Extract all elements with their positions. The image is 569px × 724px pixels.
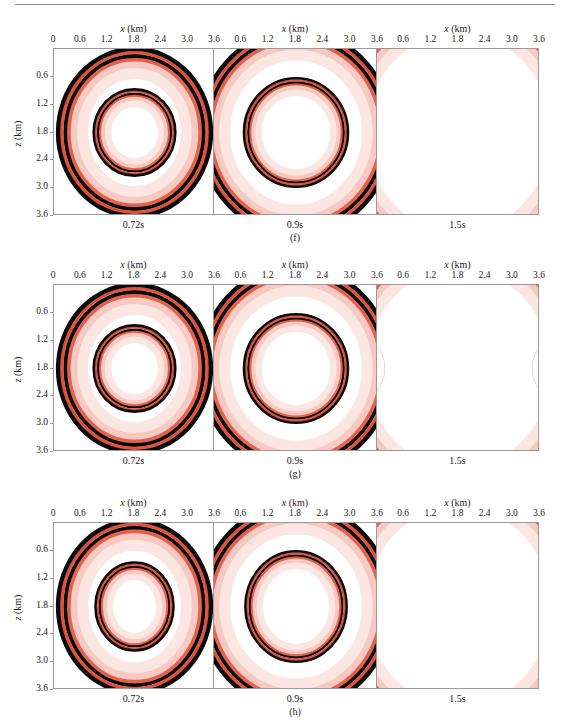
z-tick-label: 1.2 <box>24 334 48 344</box>
z-tick-label: 0.6 <box>24 70 48 80</box>
snapshot-panel-0_9s <box>213 522 377 689</box>
subfigure-label: (f) <box>275 232 315 243</box>
snapshot-time-label: 0.9s <box>265 455 325 466</box>
x-tick-label: 3.6 <box>365 508 389 518</box>
x-tick-label: 0.6 <box>228 508 252 518</box>
snapshot-time-label: 0.9s <box>265 693 325 704</box>
x-axis-unit: (km) <box>449 497 471 508</box>
x-tick-label: 2.4 <box>148 270 172 280</box>
z-tick-mark <box>50 215 53 216</box>
x-tick-label: 1.2 <box>95 34 119 44</box>
x-tick-label: 3.6 <box>527 34 551 44</box>
x-axis-label: x (km) <box>265 497 325 508</box>
x-tick-label: 0.6 <box>228 270 252 280</box>
z-tick-label: 3.0 <box>24 417 48 427</box>
z-tick-label: 2.4 <box>24 389 48 399</box>
x-tick-label: 2.4 <box>310 270 334 280</box>
snapshot-panel-0_9s <box>213 284 377 451</box>
x-tick-label: 0 <box>41 508 65 518</box>
x-axis-unit: (km) <box>449 259 471 270</box>
x-tick-label: 2.4 <box>310 34 334 44</box>
x-axis-unit: (km) <box>286 23 308 34</box>
x-axis-label: x (km) <box>265 23 325 34</box>
z-tick-label: 3.0 <box>24 655 48 665</box>
z-axis-unit: (km) <box>12 121 23 143</box>
snapshot-panel-1_5s <box>376 522 539 689</box>
snapshot-time-label: 0.72s <box>104 693 164 704</box>
z-tick-label: 1.8 <box>24 126 48 136</box>
z-tick-label: 3.6 <box>24 209 48 219</box>
x-tick-label: 1.2 <box>95 270 119 280</box>
x-axis-unit: (km) <box>449 23 471 34</box>
x-axis-label: x (km) <box>428 23 488 34</box>
page-top-rule <box>15 4 555 5</box>
x-tick-label: 1.8 <box>446 34 470 44</box>
z-tick-label: 3.6 <box>24 683 48 693</box>
x-tick-label: 3.6 <box>202 508 226 518</box>
z-tick-label: 1.8 <box>24 362 48 372</box>
x-tick-label: 2.4 <box>473 508 497 518</box>
x-tick-label: 1.8 <box>122 34 146 44</box>
z-axis-label: z (km) <box>12 583 23 633</box>
z-axis-unit: (km) <box>12 595 23 617</box>
snapshot-time-label: 0.9s <box>265 219 325 230</box>
z-tick-label: 0.6 <box>24 306 48 316</box>
x-tick-label: 3.0 <box>338 508 362 518</box>
x-axis-unit: (km) <box>286 259 308 270</box>
x-tick-label: 0.6 <box>68 508 92 518</box>
x-axis-label: x (km) <box>104 259 164 270</box>
x-tick-label: 1.2 <box>418 508 442 518</box>
x-tick-label: 2.4 <box>473 34 497 44</box>
x-axis-label: x (km) <box>104 23 164 34</box>
snapshot-time-label: 0.72s <box>104 219 164 230</box>
x-tick-label: 3.6 <box>527 508 551 518</box>
x-tick-label: 1.8 <box>122 270 146 280</box>
x-tick-label: 1.2 <box>95 508 119 518</box>
z-tick-label: 1.8 <box>24 600 48 610</box>
x-tick-label: 0 <box>41 270 65 280</box>
wavefield-image <box>54 523 214 689</box>
x-tick-label: 1.2 <box>418 270 442 280</box>
x-tick-label: 1.8 <box>283 508 307 518</box>
subfigure-label: (g) <box>275 468 315 479</box>
x-axis-unit: (km) <box>125 23 147 34</box>
x-tick-label: 3.0 <box>338 34 362 44</box>
snapshot-panel-1_5s <box>376 48 539 215</box>
x-axis-unit: (km) <box>286 497 308 508</box>
snapshot-time-label: 1.5s <box>428 219 488 230</box>
x-tick-label: 3.0 <box>338 270 362 280</box>
x-tick-label: 3.0 <box>500 34 524 44</box>
x-axis-label: x (km) <box>428 259 488 270</box>
z-axis-unit: (km) <box>12 357 23 379</box>
wavefield-image <box>214 49 377 215</box>
snapshot-time-label: 0.72s <box>104 455 164 466</box>
z-axis-var: z <box>12 143 23 147</box>
wavefield-image <box>54 285 214 451</box>
x-tick-label: 3.6 <box>202 270 226 280</box>
x-tick-label: 1.2 <box>256 270 280 280</box>
x-tick-label: 3.0 <box>500 270 524 280</box>
x-tick-label: 1.8 <box>283 34 307 44</box>
x-tick-label: 0 <box>41 34 65 44</box>
x-tick-label: 2.4 <box>473 270 497 280</box>
x-tick-label: 1.8 <box>446 270 470 280</box>
wavefield-image <box>54 49 214 215</box>
x-tick-label: 2.4 <box>148 508 172 518</box>
z-axis-var: z <box>12 379 23 383</box>
x-tick-label: 1.8 <box>446 508 470 518</box>
wavefield-image <box>377 523 539 689</box>
x-tick-label: 1.2 <box>256 508 280 518</box>
x-tick-label: 0.6 <box>391 34 415 44</box>
x-tick-label: 3.0 <box>175 270 199 280</box>
snapshot-panel-0_9s <box>213 48 377 215</box>
z-tick-label: 2.4 <box>24 627 48 637</box>
snapshot-panel-0_72s <box>53 48 214 215</box>
x-axis-label: x (km) <box>428 497 488 508</box>
snapshot-time-label: 1.5s <box>428 693 488 704</box>
z-tick-label: 1.2 <box>24 98 48 108</box>
x-tick-label: 2.4 <box>148 34 172 44</box>
z-tick-label: 3.6 <box>24 445 48 455</box>
x-axis-label: x (km) <box>265 259 325 270</box>
x-tick-label: 0.6 <box>68 34 92 44</box>
z-tick-mark <box>50 689 53 690</box>
